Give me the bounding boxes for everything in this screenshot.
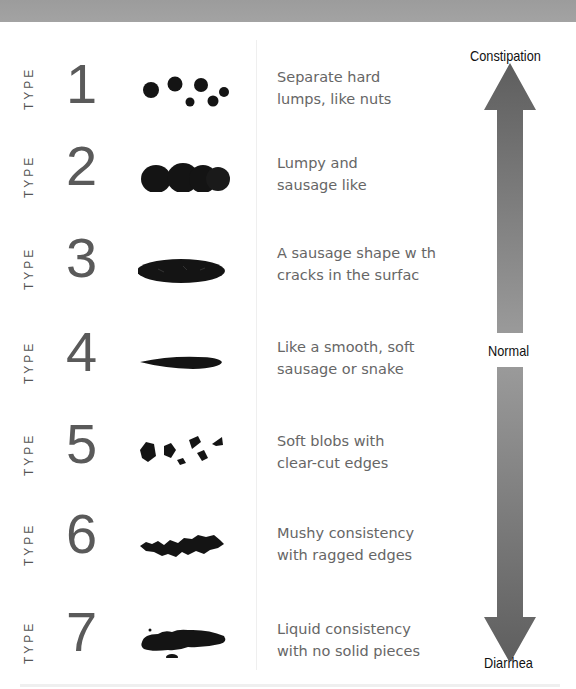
type-number: 2: [66, 136, 97, 196]
scale-label-normal: Normal: [488, 342, 529, 359]
type-row-5: TYPE 5 Soft blobs with clear-cut edges: [0, 418, 470, 498]
type-row-6: TYPE 6 Mushy consistency with ragged edg…: [0, 508, 470, 588]
header-band: [0, 0, 576, 22]
lumpy-sausage-icon: [138, 152, 238, 192]
type-number: 3: [66, 228, 97, 288]
type-label: TYPE: [22, 620, 42, 664]
description-line: with no solid pieces: [277, 640, 420, 662]
description-line: with ragged edges: [277, 544, 414, 566]
arrow-up-icon: [484, 63, 536, 333]
type-description: Lumpy and sausage like: [277, 152, 367, 196]
description-line: Mushy consistency: [277, 522, 414, 544]
type-number: 6: [66, 504, 97, 564]
type-number: 4: [66, 322, 97, 382]
type-row-2: TYPE 2 Lumpy and sausage like: [0, 140, 470, 220]
liquid-icon: [138, 618, 238, 658]
type-description: Soft blobs with clear-cut edges: [277, 430, 388, 474]
scale-label-diarrhea: Diarrhea: [484, 654, 533, 671]
consistency-scale: [470, 60, 550, 660]
description-line: lumps, like nuts: [277, 88, 391, 110]
type-label: TYPE: [22, 66, 42, 110]
description-line: Liquid consistency: [277, 618, 420, 640]
type-label: TYPE: [22, 246, 42, 290]
description-line: cracks in the surfac: [277, 264, 436, 286]
type-row-7: TYPE 7 Liquid consistency with no solid …: [0, 606, 470, 686]
soft-blobs-icon: [138, 430, 238, 470]
type-number: 1: [66, 54, 97, 114]
type-row-1: TYPE 1 Separate hard lumps, like nuts: [0, 58, 470, 138]
type-row-3: TYPE 3 A sausage shape w th cracks in th…: [0, 232, 470, 312]
description-line: Soft blobs with: [277, 430, 388, 452]
description-line: sausage or snake: [277, 358, 415, 380]
description-line: Separate hard: [277, 66, 391, 88]
type-label: TYPE: [22, 522, 42, 566]
smooth-snake-icon: [138, 338, 238, 378]
type-number: 7: [66, 602, 97, 662]
type-description: Like a smooth, soft sausage or snake: [277, 336, 415, 380]
type-row-4: TYPE 4 Like a smooth, soft sausage or sn…: [0, 326, 470, 406]
type-description: A sausage shape w th cracks in the surfa…: [277, 242, 436, 286]
description-line: Like a smooth, soft: [277, 336, 415, 358]
type-description: Separate hard lumps, like nuts: [277, 66, 391, 110]
arrow-down-icon: [484, 367, 536, 660]
description-line: sausage like: [277, 174, 367, 196]
mushy-ragged-icon: [138, 520, 238, 560]
type-label: TYPE: [22, 340, 42, 384]
scale-label-constipation: Constipation: [470, 47, 541, 64]
description-line: A sausage shape w th: [277, 242, 436, 264]
description-line: Lumpy and: [277, 152, 367, 174]
description-line: clear-cut edges: [277, 452, 388, 474]
cracked-sausage-icon: [138, 244, 238, 284]
type-description: Liquid consistency with no solid pieces: [277, 618, 420, 662]
type-number: 5: [66, 414, 97, 474]
separate-lumps-icon: [138, 70, 238, 110]
type-label: TYPE: [22, 154, 42, 198]
type-description: Mushy consistency with ragged edges: [277, 522, 414, 566]
type-label: TYPE: [22, 432, 42, 476]
